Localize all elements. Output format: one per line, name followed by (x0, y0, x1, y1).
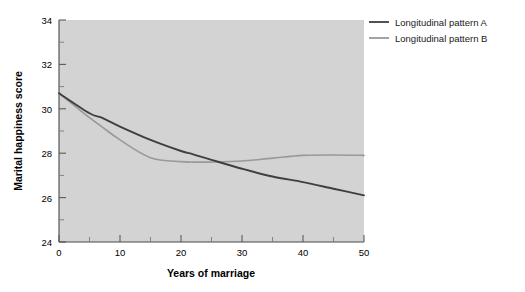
x-tick-label-10: 10 (115, 247, 126, 258)
x-tick-label-30: 30 (237, 247, 248, 258)
y-tick-label-24: 24 (41, 237, 52, 248)
y-tick-label-32: 32 (41, 59, 52, 70)
x-tick-label-50: 50 (359, 247, 370, 258)
plot-area-background (59, 20, 364, 242)
x-axis-title: Years of marriage (167, 267, 255, 279)
marital-happiness-line-chart: 34 32 30 28 26 24 Marital happiness scor… (0, 0, 525, 292)
legend-label-pattern-b: Longitudinal pattern B (395, 33, 487, 44)
y-axis-title: Marital happiness score (12, 71, 24, 191)
legend-label-pattern-a: Longitudinal pattern A (395, 17, 488, 28)
y-tick-label-30: 30 (41, 104, 52, 115)
y-tick-label-28: 28 (41, 148, 52, 159)
y-tick-label-26: 26 (41, 193, 52, 204)
y-tick-label-34: 34 (41, 15, 52, 26)
x-tick-label-0: 0 (56, 247, 61, 258)
x-tick-label-20: 20 (176, 247, 187, 258)
x-tick-label-40: 40 (298, 247, 309, 258)
